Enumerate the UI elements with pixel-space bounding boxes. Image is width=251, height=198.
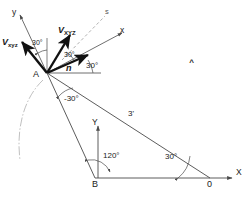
angle-label-vXYZ-nhat: 30° xyxy=(64,51,75,58)
arc-30-vxyz xyxy=(38,50,47,53)
vector-vxyz-subscript: xyz xyxy=(8,42,18,48)
reference-arc xyxy=(19,80,43,160)
axis-label-x-local: x xyxy=(120,26,124,35)
arc-30-at-O xyxy=(178,156,190,178)
angle-label-nhat-horizontal: 30° xyxy=(86,62,98,70)
angle-label-120-at-B: 120° xyxy=(103,152,120,160)
diagram-svg xyxy=(0,0,251,198)
point-label-O: 0 xyxy=(207,180,212,189)
angle-label-30-at-O: 30° xyxy=(165,153,177,161)
point-label-A: A xyxy=(33,70,39,79)
axis-label-Y-global: Y xyxy=(92,118,98,127)
diagram-canvas: y x s Vxyz VXYZ ^n 30° 30° 30° -30° 120°… xyxy=(0,0,251,198)
vector-label-vXYZ: VXYZ xyxy=(58,26,76,35)
vector-label-vxyz: Vxyz xyxy=(2,38,18,47)
s-line-label: s xyxy=(105,8,109,16)
angle-label-minus-30: -30° xyxy=(64,95,79,103)
angle-label-vxyz-y: 30° xyxy=(32,39,43,46)
axis-label-X-global: X xyxy=(236,168,242,177)
axis-label-y-local: y xyxy=(12,8,16,17)
vector-vXYZ-subscript: XYZ xyxy=(64,30,76,36)
point-label-B: B xyxy=(92,180,98,189)
dimension-label-side-AO: 3' xyxy=(128,110,134,118)
